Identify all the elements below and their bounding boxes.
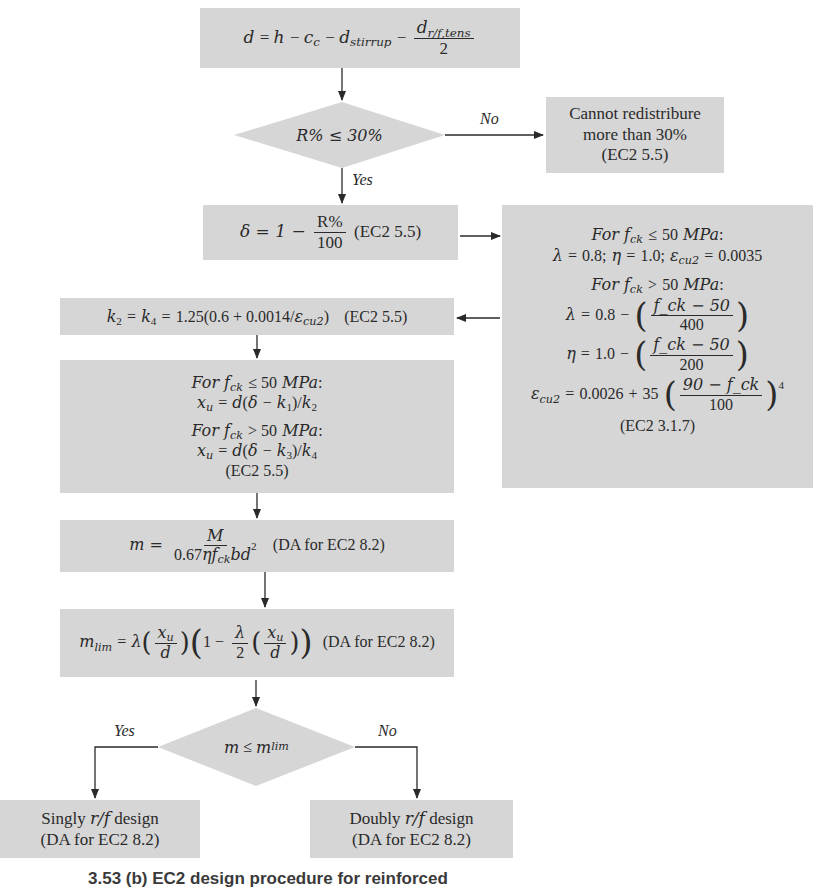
no-label-moment: No (378, 722, 397, 740)
lhs-d: d (243, 27, 254, 47)
step-neutral-axis-depth: For fck ≤ 50 MPa: xu = d(δ − k1)/k2 For … (60, 360, 454, 493)
yes-label-moment: Yes (114, 722, 135, 740)
figure-caption: 3.53 (b) EC2 design procedure for reinfo… (88, 869, 448, 889)
ref-ec2-5-5: (EC2 5.5) (354, 222, 421, 241)
decision-redistribution-condition: R% ≤ 30% (234, 102, 445, 168)
box-cannot-redistribute: Cannot redistribure more than 30% (EC2 5… (546, 97, 724, 173)
yes-label-redistribution: Yes (352, 171, 373, 189)
box-stress-block-parameters: For fck ≤ 50 MPa: λ = 0.8; η = 1.0; εcu2… (502, 205, 813, 488)
step-effective-depth: d = h − cc − dstirrup − dr/f,tens2 (200, 8, 520, 68)
ref-ec2-3-1-7: (EC2 3.1.7) (620, 416, 695, 435)
no-label-redistribution: No (480, 110, 499, 128)
step-limiting-moment: mlim = λ(xud)(1 − λ2(xud)) (DA for EC2 8… (60, 609, 454, 677)
decision-moment-condition: m ≤ mlim (158, 708, 355, 786)
step-normalized-moment: m = M0.67ηfckbd2 (DA for EC2 8.2) (60, 520, 454, 572)
step-k2-k4: k2 = k4 = 1.25(0.6 + 0.0014/εcu2) (EC2 5… (60, 298, 454, 335)
box-doubly-reinforced-design: Doubly r/f design (DA for EC2 8.2) (310, 800, 513, 858)
step-delta: δ = 1 − R%100 (EC2 5.5) (203, 205, 458, 260)
box-singly-reinforced-design: Singly r/f design (DA for EC2 8.2) (0, 800, 200, 858)
